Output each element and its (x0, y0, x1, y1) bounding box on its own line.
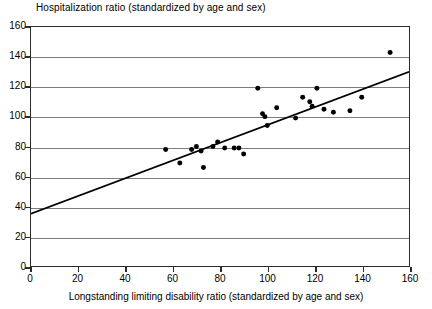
y-tick-label: 100 (0, 111, 26, 121)
data-point (293, 116, 298, 121)
scatter-chart: Hospitalization ratio (standardized by a… (0, 0, 432, 309)
chart-title: Hospitalization ratio (standardized by a… (36, 2, 266, 13)
data-point (359, 95, 364, 100)
x-tick-mark (268, 267, 270, 272)
data-point (163, 147, 168, 152)
data-point (274, 105, 279, 110)
data-point (321, 107, 326, 112)
y-tick-label: 20 (0, 232, 26, 242)
x-tick-mark (78, 267, 80, 272)
y-tick-label: 0 (0, 262, 26, 272)
plot-area (30, 26, 410, 267)
x-tick-mark (410, 267, 412, 272)
x-tick-mark (125, 267, 127, 272)
data-point (236, 146, 241, 151)
data-point (194, 144, 199, 149)
data-point (241, 151, 246, 156)
x-tick-mark (173, 267, 175, 272)
data-point (347, 108, 352, 113)
data-point (388, 50, 393, 55)
data-point (265, 123, 270, 128)
data-point (215, 140, 220, 145)
y-tick-label: 40 (0, 202, 26, 212)
x-tick-label: 140 (343, 274, 383, 284)
y-tick-mark (25, 86, 30, 88)
data-point (199, 149, 204, 154)
data-point (189, 147, 194, 152)
x-tick-label: 160 (390, 274, 430, 284)
data-point (262, 114, 267, 119)
x-tick-label: 80 (200, 274, 240, 284)
y-tick-label: 160 (0, 21, 26, 31)
x-tick-mark (30, 267, 32, 272)
x-tick-label: 40 (105, 274, 145, 284)
data-point (255, 86, 260, 91)
y-tick-label: 80 (0, 142, 26, 152)
y-tick-label: 60 (0, 172, 26, 182)
x-tick-label: 20 (58, 274, 98, 284)
data-point (310, 104, 315, 109)
x-tick-label: 120 (295, 274, 335, 284)
y-tick-mark (25, 26, 30, 28)
y-tick-mark (25, 56, 30, 58)
x-tick-label: 60 (153, 274, 193, 284)
data-point (232, 146, 237, 151)
x-tick-label: 0 (10, 274, 50, 284)
x-tick-label: 100 (248, 274, 288, 284)
y-tick-mark (25, 207, 30, 209)
y-tick-mark (25, 147, 30, 149)
data-point (201, 165, 206, 170)
data-point (177, 160, 182, 165)
x-tick-mark (220, 267, 222, 272)
data-layer (31, 27, 409, 266)
y-tick-label: 140 (0, 51, 26, 61)
y-tick-mark (25, 116, 30, 118)
data-point (331, 110, 336, 115)
y-tick-label: 120 (0, 81, 26, 91)
x-tick-mark (315, 267, 317, 272)
data-point (300, 95, 305, 100)
data-point (222, 146, 227, 151)
data-point (314, 86, 319, 91)
y-tick-mark (25, 177, 30, 179)
x-tick-mark (363, 267, 365, 272)
data-point (210, 144, 215, 149)
y-tick-mark (25, 237, 30, 239)
data-point (307, 99, 312, 104)
x-axis-label: Longstanding limiting disability ratio (… (0, 291, 432, 302)
